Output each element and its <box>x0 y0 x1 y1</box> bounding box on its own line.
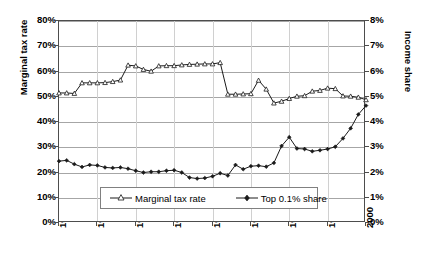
data-point <box>80 165 84 169</box>
data-point <box>303 147 307 151</box>
y-axis-left-tick-label: 50% <box>16 91 56 101</box>
data-point <box>141 67 146 71</box>
y-axis-right-tick-label: 8% <box>370 15 410 25</box>
data-point <box>88 163 92 167</box>
legend-item-marginal-tax-rate: Marginal tax rate <box>110 193 206 204</box>
data-point <box>126 167 130 171</box>
y-axis-left-tick-label: 60% <box>16 66 56 76</box>
data-point <box>218 171 222 175</box>
legend-marker-solid-diamond-icon <box>236 193 258 203</box>
data-point <box>272 161 276 165</box>
y-axis-right-tick-label: 4% <box>370 116 410 126</box>
data-point <box>310 149 314 153</box>
data-point <box>119 166 123 170</box>
data-point <box>149 170 153 174</box>
legend-label-0: Marginal tax rate <box>135 193 206 204</box>
y-axis-left-tick-label: 80% <box>16 15 56 25</box>
data-point <box>57 159 61 163</box>
data-point <box>134 169 138 173</box>
data-point <box>103 166 107 170</box>
legend-marker-open-triangle-icon <box>110 193 132 203</box>
series-top-01-share <box>57 104 368 181</box>
y-axis-right-tick-label: 3% <box>370 141 410 151</box>
series-marginal-tax-rate <box>57 60 369 105</box>
y-axis-right-tick-label: 6% <box>370 66 410 76</box>
data-point <box>65 158 69 162</box>
data-point <box>241 167 245 171</box>
y-axis-left-tick-label: 10% <box>16 192 56 202</box>
chart-figure: Marginal tax rate Income share 0%10%20%3… <box>0 0 425 270</box>
data-point <box>326 147 330 151</box>
data-point <box>142 171 146 175</box>
chart-title-strip <box>0 0 425 7</box>
data-point <box>264 165 268 169</box>
y-axis-right-tick-label: 1% <box>370 192 410 202</box>
y-axis-left-tick-label: 40% <box>16 116 56 126</box>
y-axis-right-tick-label: 2% <box>370 167 410 177</box>
y-axis-left-tick-label: 30% <box>16 141 56 151</box>
data-point <box>165 169 169 173</box>
y-axis-left-tick-label: 70% <box>16 40 56 50</box>
data-point <box>211 174 215 178</box>
y-axis-right-tick-label: 5% <box>370 91 410 101</box>
chart-legend: Marginal tax rate Top 0.1% share <box>100 187 318 209</box>
data-point <box>157 170 161 174</box>
y-axis-right-tick-label: 0% <box>370 217 410 227</box>
y-axis-left-tick-label: 20% <box>16 167 56 177</box>
data-point <box>203 176 207 180</box>
data-point <box>72 162 76 166</box>
y-axis-right-tick-label: 7% <box>370 40 410 50</box>
data-point <box>172 168 176 172</box>
legend-item-top-01-share: Top 0.1% share <box>236 193 327 204</box>
data-point <box>95 164 99 168</box>
data-point <box>195 177 199 181</box>
data-point <box>111 166 115 170</box>
y-axis-left-tick-label: 0% <box>16 217 56 227</box>
data-point <box>257 164 261 168</box>
data-point <box>256 78 261 82</box>
legend-label-1: Top 0.1% share <box>261 193 327 204</box>
data-point <box>249 164 253 168</box>
data-point <box>318 148 322 152</box>
